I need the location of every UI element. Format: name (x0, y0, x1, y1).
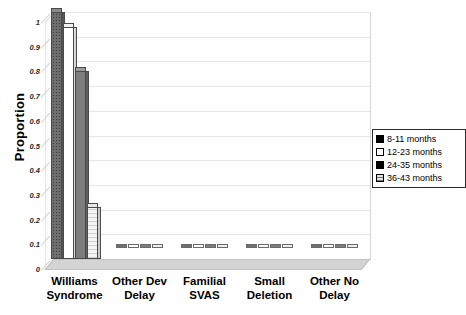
plot-area (45, 12, 370, 270)
legend-swatch (376, 174, 384, 182)
bar (282, 244, 293, 248)
legend-item: 12-23 months (376, 146, 462, 158)
y-tick-label: 0.6 (12, 117, 40, 126)
y-tick-label: 0.4 (12, 166, 40, 175)
bar (258, 244, 269, 248)
bar (63, 27, 74, 259)
y-tick-label: 0.3 (12, 191, 40, 200)
bar (347, 244, 358, 248)
bar-group (181, 12, 246, 259)
bar (193, 244, 204, 248)
chart-legend: 8-11 months12-23 months24-35 months36-43… (372, 129, 466, 188)
legend-label: 24-35 months (387, 160, 442, 170)
y-tick-label: 0.8 (12, 67, 40, 76)
y-tick-label: 0.2 (12, 216, 40, 225)
bar (335, 244, 346, 248)
legend-swatch (376, 135, 384, 143)
bar-face (75, 71, 86, 259)
bar (205, 244, 216, 248)
legend-label: 8-11 months (387, 134, 436, 144)
x-tick-label: Other NoDelay (289, 274, 381, 302)
bar (87, 207, 98, 259)
y-tick-label: 0.1 (12, 240, 40, 249)
bar-face (51, 12, 62, 259)
y-tick-label: 0 (12, 265, 40, 274)
bar-group (51, 12, 116, 259)
bar (75, 71, 86, 259)
bar-face (87, 207, 98, 259)
bar-top (51, 8, 62, 13)
legend-item: 36-43 months (376, 172, 462, 184)
y-tick-label: 0.9 (12, 43, 40, 52)
bar (217, 244, 228, 248)
x-axis-tick-labels: WilliamsSyndromeOther DevDelayFamilialSV… (45, 274, 370, 312)
bar-top (87, 203, 98, 208)
bar (246, 244, 257, 248)
bar-group (116, 12, 181, 259)
chart-floor (45, 259, 370, 270)
bar (116, 244, 127, 248)
legend-swatch (376, 161, 384, 169)
bar (323, 244, 334, 248)
x-tick-label-line: Other No (289, 274, 381, 288)
bar (270, 244, 281, 248)
legend-label: 36-43 months (387, 173, 442, 183)
y-axis-tick-labels: 10.90.80.70.60.50.40.30.20.10 (8, 12, 40, 270)
bar-group (246, 12, 311, 259)
y-tick-label: 0.7 (12, 92, 40, 101)
legend-item: 24-35 months (376, 159, 462, 171)
y-tick-label: 0.5 (12, 142, 40, 151)
bar-top (75, 67, 86, 72)
bar-top (63, 23, 74, 28)
bar (181, 244, 192, 248)
bar (128, 244, 139, 248)
bar-group (311, 12, 376, 259)
legend-item: 8-11 months (376, 133, 462, 145)
x-tick-label-line: Delay (289, 288, 381, 302)
bar (311, 244, 322, 248)
bar (152, 244, 163, 248)
y-tick-label: 1 (12, 18, 40, 27)
bar (140, 244, 151, 248)
legend-label: 12-23 months (387, 147, 442, 157)
bar-face (63, 27, 74, 259)
bar (51, 12, 62, 259)
legend-swatch (376, 148, 384, 156)
